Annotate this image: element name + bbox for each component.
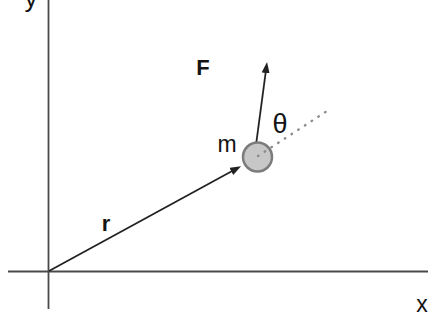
mass-label: m <box>217 131 236 157</box>
position-vector-r <box>49 170 234 271</box>
force-label: F <box>196 55 209 80</box>
x-axis-label: x <box>416 291 428 317</box>
position-vector-label: r <box>102 211 111 236</box>
y-axis-label: y <box>25 0 38 13</box>
diagram-canvas: y x F θ m r <box>0 0 434 328</box>
force-vector-f <box>256 70 266 145</box>
angle-label: θ <box>272 109 287 139</box>
physics-diagram: y x F θ m r <box>0 0 434 328</box>
